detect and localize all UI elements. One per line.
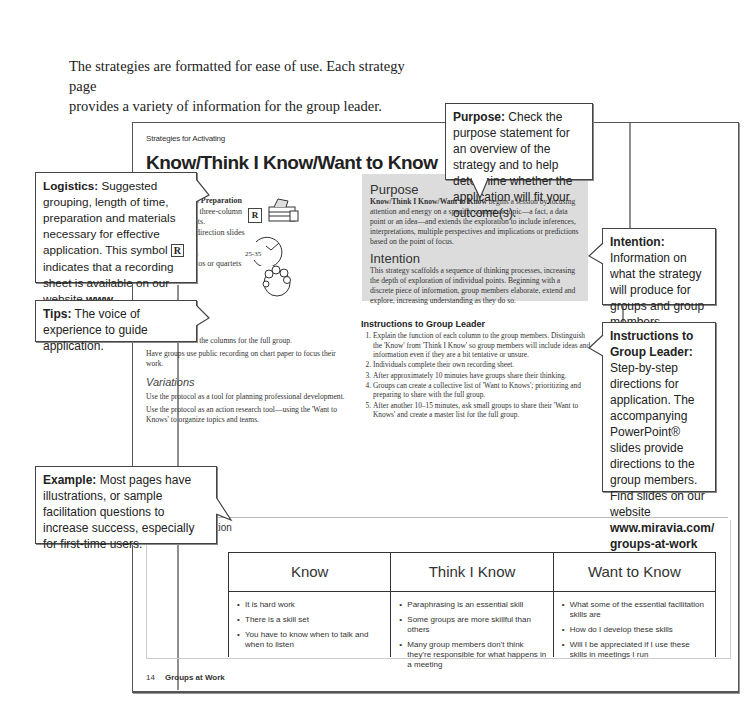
column-think-i-know: Think I Know Paraphrasing is an essentia…	[391, 553, 553, 657]
variations-p2: Use the protocol as an action research t…	[146, 405, 346, 425]
intention-heading: Intention	[370, 251, 580, 266]
callout-example-pointer	[216, 496, 234, 526]
column-want-to-know: Want to Know What some of the essential …	[554, 553, 715, 657]
column-item: Some groups are more skillful than other…	[399, 615, 546, 635]
callout-example: Example: Most pages have illustrations, …	[35, 466, 217, 544]
callout-purpose-pointer	[470, 178, 500, 200]
column-item: Paraphrasing is an essential skill	[399, 600, 546, 610]
callout-tips-pointer	[196, 304, 212, 330]
section-eyebrow: Strategies for Activating	[146, 134, 225, 143]
instruction-step: Explain the function of each column to t…	[373, 331, 593, 360]
instruction-step: Groups can create a collective list of '…	[373, 381, 593, 400]
column-item: What some of the essential facilitation …	[562, 600, 709, 620]
instructions-list: Explain the function of each column to t…	[361, 331, 593, 420]
instructions-heading: Instructions to Group Leader	[361, 319, 593, 329]
instruction-step: Individuals complete their own recording…	[373, 360, 593, 370]
callout-intention: Intention: Information on what the strat…	[602, 228, 716, 305]
column-item: You have to know when to talk and when t…	[237, 630, 384, 650]
page-number: 14	[146, 673, 155, 682]
callout-instructions-pointer	[588, 334, 604, 360]
variations-heading: Variations	[146, 376, 346, 388]
book-title: Groups at Work	[165, 673, 225, 682]
column-item: It is hard work	[237, 600, 384, 610]
page-footer: 14Groups at Work	[146, 673, 225, 682]
callout-purpose: Purpose: Check the purpose statement for…	[445, 103, 593, 180]
callout-tips: Tips: The voice of experience to guide a…	[35, 300, 197, 342]
column-know: Know It is hard work There is a skill se…	[229, 553, 391, 657]
column-header: Know	[229, 553, 390, 592]
intention-body: This strategy scaffolds a sequence of th…	[370, 266, 580, 306]
recording-symbol-sample: R	[171, 244, 184, 257]
callout-logistics-pointer	[196, 178, 212, 206]
clock-icon: 25-35	[244, 234, 288, 266]
column-header: Want to Know	[554, 553, 715, 592]
callout-intention-pointer	[588, 242, 604, 268]
column-item: There is a skill set	[237, 615, 384, 625]
kwl-table: Know It is hard work There is a skill se…	[228, 552, 716, 657]
callout-instructions: Instructions to Group Leader: Step-by-st…	[602, 322, 716, 492]
recording-sheet-symbol: R	[248, 208, 262, 223]
svg-text:25-35: 25-35	[245, 250, 262, 258]
tip-p2: Have groups use public recording on char…	[146, 349, 346, 369]
column-item: Many group members don't think they're r…	[399, 640, 546, 670]
instruction-step: After approximately 10 minutes have grou…	[373, 371, 593, 381]
column-item: How do I develop these skills	[562, 625, 709, 635]
variations-p1: Use the protocol as a tool for planning …	[146, 392, 346, 402]
recording-sheet-stack-icon	[266, 197, 300, 225]
column-header: Think I Know	[391, 553, 552, 592]
instruction-step: After another 10–15 minutes, ask small g…	[373, 401, 593, 420]
column-item: Will I be appreciated if I use these ski…	[562, 640, 709, 660]
callout-logistics: Logistics: Suggested grouping, length of…	[35, 172, 197, 283]
instructions-block: Instructions to Group Leader Explain the…	[361, 319, 593, 420]
strategy-title: Know/Think I Know/Want to Know	[146, 152, 437, 174]
group-globe-icon	[259, 264, 295, 298]
